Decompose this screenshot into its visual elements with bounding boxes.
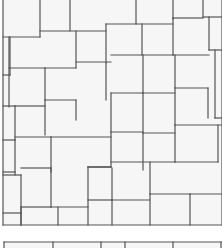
- tile-pattern-canvas: [0, 0, 222, 248]
- paving-bottom-strip: [4, 242, 222, 248]
- tile-pattern-diagram: [0, 0, 222, 248]
